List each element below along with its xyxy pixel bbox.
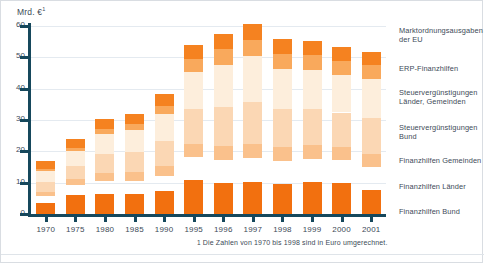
bottom-divider [1, 254, 484, 255]
bar-segment [243, 144, 262, 158]
y-axis-tick [20, 213, 29, 216]
legend-item[interactable]: Steuervergünstigungen Bund [399, 123, 485, 141]
bar-segment [214, 34, 233, 49]
y-axis-tick [20, 56, 29, 59]
bar-segment [243, 56, 262, 101]
bar-2000[interactable] [332, 47, 351, 214]
bar-segment [214, 183, 233, 214]
y-axis-labels: 0102030405060 [3, 1, 25, 263]
legend-item[interactable]: ERP-Finanzhilfen [399, 64, 485, 73]
bar-1980[interactable] [95, 119, 114, 214]
x-axis-tick [45, 214, 48, 222]
legend-item[interactable]: Finanzhilfen Bund [399, 207, 485, 216]
bar-segment [243, 24, 262, 39]
bar-segment [125, 172, 144, 181]
bar-segment [95, 181, 114, 194]
bar-segment [214, 146, 233, 160]
bar-segment [66, 195, 85, 214]
x-axis-tick [281, 214, 284, 222]
bar-segment [95, 173, 114, 181]
legend-item[interactable]: Marktordnungsausgaben der EU [399, 26, 485, 44]
bar-segment [362, 167, 381, 190]
x-axis-tick [163, 214, 166, 222]
bar-segment [332, 75, 351, 113]
x-axis-tick [370, 214, 373, 222]
bar-segment [303, 70, 322, 109]
bar-segment [36, 182, 55, 192]
bar-segment [362, 79, 381, 118]
bar-segment [243, 182, 262, 214]
bar-1975[interactable] [66, 139, 85, 214]
bar-segment [332, 147, 351, 160]
bar-segment [36, 171, 55, 182]
bar-segment [303, 159, 322, 182]
x-axis-tick [252, 214, 255, 222]
bar-segment [273, 109, 292, 147]
bar-segment [36, 203, 55, 214]
bar-segment [95, 154, 114, 173]
x-axis-tick [341, 214, 344, 222]
bar-segment [332, 113, 351, 147]
legend-item[interactable]: Finanzhilfen Länder [399, 182, 485, 191]
bar-segment [155, 94, 174, 107]
bar-1995[interactable] [184, 45, 203, 214]
bar-segment [184, 144, 203, 157]
bar-segment [125, 124, 144, 130]
bar-segment [184, 72, 203, 110]
bar-1996[interactable] [214, 34, 233, 214]
bar-1997[interactable] [243, 24, 262, 214]
x-axis-tick [104, 214, 107, 222]
plot-area [31, 26, 386, 214]
bar-segment [155, 176, 174, 192]
bar-segment [303, 182, 322, 214]
y-axis-tick [20, 150, 29, 153]
bar-segment [362, 190, 381, 214]
bar-segment [273, 184, 292, 214]
bar-segment [155, 114, 174, 141]
y-axis-tick [20, 119, 29, 122]
bar-segment [214, 160, 233, 183]
bar-1999[interactable] [303, 41, 322, 214]
bar-1990[interactable] [155, 94, 174, 214]
bar-segment [303, 41, 322, 56]
x-axis-tick [311, 214, 314, 222]
bar-segment [66, 185, 85, 194]
y-axis-tick [20, 88, 29, 91]
gridline [31, 26, 386, 27]
bar-segment [214, 49, 233, 65]
bar-2001[interactable] [362, 52, 381, 214]
bar-segment [95, 119, 114, 129]
bar-segment [184, 109, 203, 143]
bar-segment [362, 118, 381, 154]
bar-segment [362, 154, 381, 167]
x-axis-line [28, 214, 386, 217]
legend-item[interactable]: Finanzhilfen Gemeinden [399, 156, 485, 165]
legend-item[interactable]: Steuervergünstigungen Länder, Gemeinden [399, 88, 485, 106]
bar-1970[interactable] [36, 161, 55, 214]
bar-segment [273, 54, 292, 69]
bar-segment [273, 69, 292, 110]
x-axis-tick [222, 214, 225, 222]
bar-1985[interactable] [125, 114, 144, 214]
bar-segment [184, 59, 203, 72]
x-axis-tick [193, 214, 196, 222]
bar-segment [66, 179, 85, 185]
bar-segment [362, 52, 381, 65]
bar-segment [36, 196, 55, 202]
bar-segment [95, 194, 114, 214]
bar-segment [155, 166, 174, 176]
bar-segment [66, 166, 85, 179]
bar-segment [155, 191, 174, 214]
bar-segment [66, 139, 85, 147]
bar-segment [36, 169, 55, 172]
bar-segment [243, 158, 262, 182]
bar-segment [273, 161, 292, 184]
x-axis-tick [74, 214, 77, 222]
bar-segment [273, 147, 292, 161]
bar-1998[interactable] [273, 39, 292, 214]
bar-segment [214, 65, 233, 107]
bar-segment [95, 129, 114, 134]
bar-segment [66, 151, 85, 165]
bar-segment [125, 130, 144, 152]
bar-segment [125, 114, 144, 125]
